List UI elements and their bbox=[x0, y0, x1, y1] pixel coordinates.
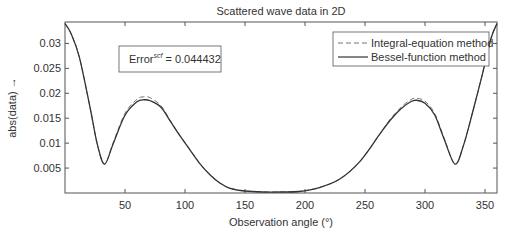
legend-label-bessel: Bessel-function method bbox=[371, 51, 486, 63]
x-axis-label: Observation angle (°) bbox=[229, 216, 333, 228]
x-tick-label: 50 bbox=[119, 199, 131, 211]
y-tick-label: 0.015 bbox=[33, 112, 61, 124]
error-annotation-text: Errorscf = 0.044432 bbox=[129, 52, 221, 65]
chart-title: Scattered wave data in 2D bbox=[216, 5, 345, 17]
x-tick-label: 200 bbox=[296, 199, 314, 211]
y-tick-label: 0.005 bbox=[33, 162, 61, 174]
y-axis-label: abs(data) → bbox=[6, 77, 18, 138]
chart-canvas: 501001502002503003500.0050.010.0150.020.… bbox=[0, 0, 516, 237]
x-tick-label: 150 bbox=[236, 199, 254, 211]
y-tick-label: 0.01 bbox=[40, 137, 61, 149]
x-tick-label: 100 bbox=[176, 199, 194, 211]
y-tick-label: 0.02 bbox=[40, 87, 61, 99]
x-tick-label: 300 bbox=[416, 199, 434, 211]
legend-label-integral: Integral-equation method bbox=[371, 37, 493, 49]
plot-area: 501001502002503003500.0050.010.0150.020.… bbox=[6, 5, 497, 228]
x-tick-label: 350 bbox=[476, 199, 494, 211]
y-tick-label: 0.025 bbox=[33, 62, 61, 74]
x-tick-label: 250 bbox=[356, 199, 374, 211]
y-tick-label: 0.03 bbox=[40, 37, 61, 49]
